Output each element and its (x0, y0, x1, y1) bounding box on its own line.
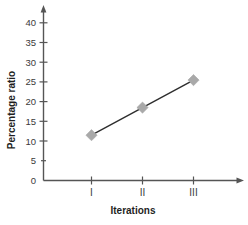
y-tick-label-20: 20 (25, 96, 36, 107)
x-tick-label-3: III (189, 187, 197, 198)
y-tick-label-15: 15 (25, 116, 36, 127)
y-tick-label-35: 35 (25, 37, 36, 48)
chart-canvas: 40 35 30 25 20 15 10 5 0 Percentage rati… (0, 0, 248, 225)
x-axis-title: Iterations (110, 205, 155, 216)
y-tick-label-10: 10 (25, 136, 36, 147)
y-axis-title: Percentage ratio (6, 71, 17, 149)
y-tick-label-25: 25 (25, 76, 36, 87)
y-tick-label-30: 30 (25, 57, 36, 68)
chart-background (0, 0, 248, 225)
x-tick-label-1: I (90, 187, 93, 198)
x-tick-label-2: II (140, 187, 146, 198)
y-tick-label-40: 40 (25, 17, 36, 28)
line-chart-figure: 40 35 30 25 20 15 10 5 0 Percentage rati… (0, 0, 248, 225)
y-tick-label-0: 0 (31, 175, 36, 186)
y-tick-label-5: 5 (31, 155, 36, 166)
